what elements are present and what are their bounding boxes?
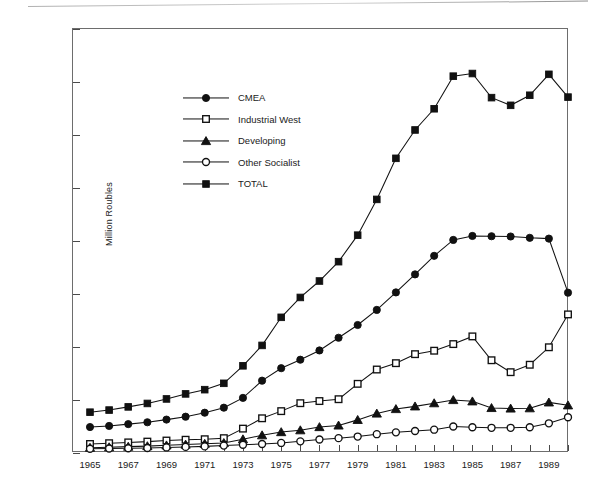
- series-line: [90, 74, 568, 413]
- data-point-marker: [373, 431, 380, 438]
- data-point-marker: [335, 435, 342, 442]
- data-point-marker: [106, 445, 113, 452]
- data-point-marker: [201, 443, 208, 450]
- data-point-marker: [546, 344, 553, 351]
- data-point-marker: [297, 294, 304, 301]
- data-point-marker: [488, 94, 495, 101]
- legend-swatch: [183, 155, 229, 169]
- data-point-marker: [373, 306, 380, 313]
- chart-figure: Million Roubles 020000400006000080000100…: [0, 0, 594, 487]
- legend-marker-filled-circle-icon: [202, 94, 209, 101]
- data-point-marker: [239, 394, 246, 401]
- legend-marker-filled-square-icon: [203, 180, 210, 187]
- data-point-marker: [450, 341, 457, 348]
- data-point-marker: [87, 409, 94, 416]
- data-point-marker: [278, 408, 285, 415]
- series-line: [90, 314, 568, 444]
- data-point-marker: [278, 314, 285, 321]
- x-axis-tick-label: 1965: [79, 459, 100, 470]
- data-point-marker: [526, 92, 533, 99]
- data-point-marker: [488, 233, 495, 240]
- chart-legend: CMEAIndustrial WestDevelopingOther Socia…: [183, 87, 301, 195]
- data-point-marker: [450, 423, 457, 430]
- data-point-marker: [182, 413, 189, 420]
- data-point-marker: [411, 271, 418, 278]
- x-axis-tick-label: 1981: [385, 459, 406, 470]
- legend-swatch: [183, 91, 229, 105]
- data-point-marker: [565, 311, 572, 318]
- legend-item-total[interactable]: TOTAL: [183, 173, 301, 195]
- x-axis-tick-label: 1977: [309, 459, 330, 470]
- legend-item-industrial-west[interactable]: Industrial West: [183, 109, 301, 131]
- data-point-marker: [354, 232, 361, 239]
- x-axis-tick-label: 1979: [347, 459, 368, 470]
- data-point-marker: [353, 415, 362, 423]
- data-point-marker: [278, 439, 285, 446]
- data-point-marker: [163, 444, 170, 451]
- data-point-marker: [393, 155, 400, 162]
- data-point-marker: [297, 400, 304, 407]
- legend-marker-open-circle-icon: [203, 159, 210, 166]
- data-point-marker: [507, 233, 514, 240]
- data-point-marker: [144, 444, 151, 451]
- data-point-marker: [239, 441, 246, 448]
- x-axis-tick-label: 1983: [424, 459, 445, 470]
- data-point-marker: [335, 258, 342, 265]
- series-total: [87, 70, 572, 415]
- page-scan-artifact-line: [28, 1, 588, 7]
- legend-swatch: [183, 177, 229, 191]
- x-axis-tick-label: 1967: [118, 459, 139, 470]
- data-point-marker: [469, 333, 476, 340]
- data-point-marker: [316, 347, 323, 354]
- data-series-layer: [73, 29, 569, 453]
- x-axis-tick-label: 1973: [232, 459, 253, 470]
- legend-item-other-socialist[interactable]: Other Socialist: [183, 152, 301, 174]
- data-point-marker: [259, 342, 266, 349]
- legend-swatch: [183, 112, 229, 126]
- data-point-marker: [316, 278, 323, 285]
- data-point-marker: [316, 398, 323, 405]
- legend-item-label: Other Socialist: [238, 157, 300, 168]
- data-point-marker: [201, 409, 208, 416]
- y-axis-tick: [73, 453, 80, 454]
- data-point-marker: [354, 381, 361, 388]
- data-point-marker: [240, 363, 247, 370]
- data-point-marker: [565, 414, 572, 421]
- x-axis-tick-label: 1985: [462, 459, 483, 470]
- series-developing: [85, 396, 572, 452]
- data-point-marker: [259, 415, 266, 422]
- data-point-marker: [412, 351, 419, 358]
- series-line: [90, 236, 568, 427]
- series-industrial-west: [87, 311, 572, 447]
- data-point-marker: [125, 445, 132, 452]
- data-point-marker: [258, 377, 265, 384]
- data-point-marker: [163, 416, 170, 423]
- legend-item-label: CMEA: [238, 92, 265, 103]
- data-point-marker: [221, 380, 228, 387]
- data-point-marker: [182, 443, 189, 450]
- data-point-marker: [163, 396, 170, 403]
- data-point-marker: [392, 429, 399, 436]
- data-point-marker: [449, 396, 458, 404]
- legend-item-cmea[interactable]: CMEA: [183, 87, 301, 109]
- legend-item-developing[interactable]: Developing: [183, 130, 301, 152]
- data-point-marker: [546, 71, 553, 78]
- x-axis-tick-label: 1969: [156, 459, 177, 470]
- data-point-marker: [507, 424, 514, 431]
- data-point-marker: [526, 361, 533, 368]
- data-point-marker: [220, 442, 227, 449]
- data-point-marker: [431, 347, 438, 354]
- x-axis-tick-label: 1975: [271, 459, 292, 470]
- data-point-marker: [488, 357, 495, 364]
- data-point-marker: [545, 420, 552, 427]
- data-point-marker: [431, 426, 438, 433]
- data-point-marker: [240, 425, 247, 432]
- data-point-marker: [144, 419, 151, 426]
- data-point-marker: [564, 289, 571, 296]
- data-point-marker: [87, 445, 94, 452]
- data-point-marker: [278, 365, 285, 372]
- data-point-marker: [125, 404, 132, 411]
- legend-marker-open-square-icon: [203, 116, 210, 123]
- x-axis-tick-label: 1987: [500, 459, 521, 470]
- data-point-marker: [297, 356, 304, 363]
